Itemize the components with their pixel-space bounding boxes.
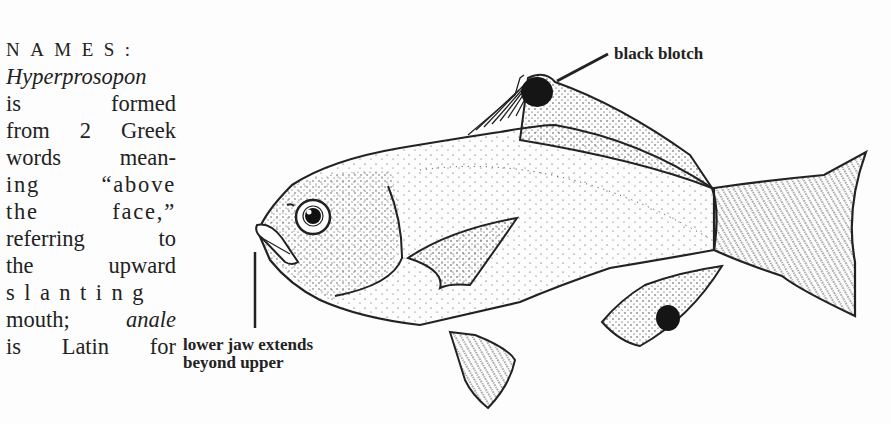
text-line: the face,”	[6, 198, 176, 225]
text-line: ing “above	[6, 171, 176, 198]
text-line: is formed	[6, 90, 176, 117]
anal-black-blotch	[656, 305, 680, 331]
text-line: referring to	[6, 225, 176, 252]
text-line: slanting	[6, 279, 176, 306]
pelvic-fin	[450, 332, 515, 408]
names-text-column: NAMES: Hyperprosopon is formed from 2 Gr…	[6, 36, 176, 360]
dorsal-black-blotch	[521, 77, 553, 107]
anal-fin	[602, 266, 722, 346]
blotch-pointer-line	[557, 54, 608, 81]
fish-illustration	[240, 40, 891, 424]
text-line: is Latin for	[6, 333, 176, 360]
text-line-mouth: mouth; anale	[6, 306, 176, 333]
names-heading: NAMES:	[6, 36, 176, 63]
text-line: the upward	[6, 252, 176, 279]
text-line: words mean-	[6, 144, 176, 171]
text-line: from 2 Greek	[6, 117, 176, 144]
genus-name: Hyperprosopon	[6, 63, 176, 90]
caudal-fin	[714, 152, 866, 316]
